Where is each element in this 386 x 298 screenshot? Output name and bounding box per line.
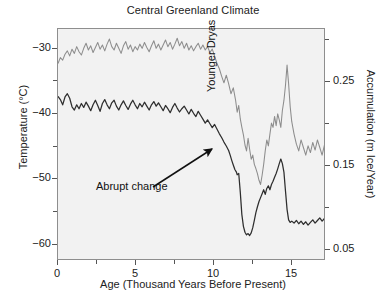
- x-tick-label: 15: [271, 267, 311, 279]
- y-tick-label-left: −30: [9, 41, 51, 53]
- axis-tick: [252, 260, 253, 264]
- chart-figure: Central Greenland Climate Temperature (°…: [0, 0, 386, 298]
- axis-tick: [52, 113, 57, 114]
- y-tick-label-left: −60: [9, 237, 51, 249]
- y-tick-label-right: 0.15: [333, 158, 369, 170]
- axis-tick: [325, 123, 329, 124]
- axis-tick: [52, 244, 57, 245]
- annotation-arrow-icon: [150, 140, 230, 192]
- axis-tick: [291, 260, 292, 265]
- annotation-younger-dryas: Younger Dryas: [205, 20, 217, 92]
- axis-tick: [174, 260, 175, 264]
- axis-tick: [53, 146, 57, 147]
- x-axis-title: Age (Thousand Years Before Present): [0, 278, 386, 290]
- y-tick-label-left: −50: [9, 171, 51, 183]
- axis-tick: [53, 80, 57, 81]
- axis-tick: [53, 211, 57, 212]
- axis-tick: [52, 178, 57, 179]
- axis-tick: [325, 165, 330, 166]
- axis-tick: [52, 48, 57, 49]
- x-tick-label: 0: [37, 267, 77, 279]
- chart-title: Central Greenland Climate: [0, 4, 386, 16]
- y-tick-label-right: 0.25: [333, 74, 369, 86]
- axis-tick: [96, 260, 97, 264]
- y-tick-label-left: −40: [9, 106, 51, 118]
- axis-tick: [325, 249, 330, 250]
- axis-tick: [135, 260, 136, 265]
- axis-tick: [325, 207, 329, 208]
- x-tick-label: 5: [115, 267, 155, 279]
- axis-tick: [325, 39, 329, 40]
- axis-tick: [213, 260, 214, 265]
- x-tick-label: 10: [193, 267, 233, 279]
- axis-tick: [57, 260, 58, 265]
- y-tick-label-right: 0.05: [333, 242, 369, 254]
- axis-tick: [325, 81, 330, 82]
